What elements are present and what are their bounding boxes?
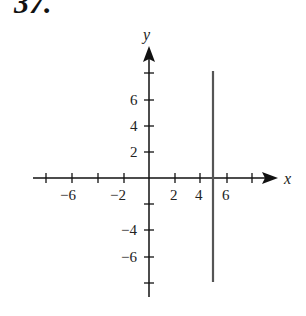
y-tick-label: −4 xyxy=(121,222,137,238)
x-tick-label: −2 xyxy=(110,187,126,203)
y-axis: 6 4 2 −4 −6 y xyxy=(121,26,155,297)
x-tick-label: 4 xyxy=(195,187,203,203)
x-tick-label: 6 xyxy=(222,187,230,203)
y-tick-label: 4 xyxy=(130,118,138,134)
x-axis-label: x xyxy=(283,170,291,187)
y-axis-label: y xyxy=(141,26,151,44)
y-tick-label: 2 xyxy=(130,144,138,160)
y-tick-label: 6 xyxy=(130,92,138,108)
coordinate-plane: −6 −2 2 4 6 x 6 4 2 −4 −6 y xyxy=(0,0,306,316)
y-tick-label: −6 xyxy=(121,249,137,265)
x-tick-label: 2 xyxy=(170,187,178,203)
x-tick-label: −6 xyxy=(60,187,76,203)
x-axis: −6 −2 2 4 6 x xyxy=(33,170,291,203)
